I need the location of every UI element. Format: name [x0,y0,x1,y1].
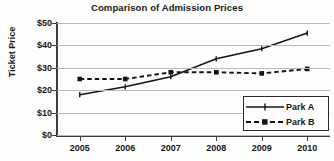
data-point-marker [77,77,82,82]
y-axis-tick-label: $0 [22,130,52,140]
legend-label-park-a: Park A [286,102,314,112]
series-line [80,69,308,79]
x-axis-tick-label: 2008 [196,143,236,153]
y-axis-tick-mark [52,90,57,91]
legend-item-park-a[interactable]: Park A [244,99,330,115]
data-point-marker [214,70,219,75]
series-park-a [80,30,308,97]
data-point-marker [123,77,128,82]
x-axis-tick-mark [307,137,308,141]
chart-title: Comparison of Admission Prices [0,2,334,13]
gridline [57,90,330,91]
y-axis-tick-label: $50 [22,18,52,28]
gridline [57,45,330,46]
y-axis-tick-mark [52,68,57,69]
series-park-b [77,67,309,82]
y-axis-tick-mark [52,23,57,24]
legend-label-park-b: Park B [286,117,315,127]
x-axis-tick-label: 2009 [242,143,282,153]
x-axis-tick-label: 2010 [287,143,327,153]
x-axis-tick-label: 2006 [105,143,145,153]
line-chart: Comparison of Admission Prices Ticket Pr… [0,0,334,161]
x-axis-tick-mark [262,137,263,141]
y-axis-tick-label: $10 [22,108,52,118]
legend-swatch-park-a [244,100,286,114]
y-axis-title: Ticket Price [7,12,17,92]
gridline [57,23,330,24]
chart-legend: Park A Park B [243,96,329,131]
y-axis-tick-label: $40 [22,40,52,50]
data-point-marker [259,71,264,76]
x-axis-tick-label: 2005 [60,143,100,153]
legend-item-park-b[interactable]: Park B [244,114,330,130]
gridline [57,135,330,136]
y-axis-tick-mark [52,135,57,136]
y-axis-tick-mark [52,113,57,114]
y-axis-tick-mark [52,45,57,46]
gridline [57,68,330,69]
x-axis-tick-mark [80,137,81,141]
x-axis-tick-mark [125,137,126,141]
legend-swatch-park-b [244,115,286,129]
x-axis-tick-mark [216,137,217,141]
y-axis-tick-label: $30 [22,63,52,73]
data-point-marker [168,70,173,75]
x-axis-tick-label: 2007 [151,143,191,153]
x-axis-tick-mark [171,137,172,141]
series-line [80,33,308,95]
y-axis-tick-label: $20 [22,85,52,95]
